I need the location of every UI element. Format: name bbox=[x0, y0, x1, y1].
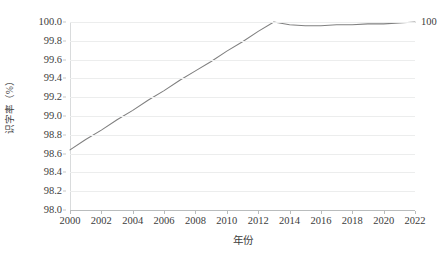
x-tick-mark bbox=[195, 211, 196, 214]
x-tick-label: 2010 bbox=[216, 216, 237, 227]
x-tick-label: 2020 bbox=[373, 216, 394, 227]
y-tick-label: 99.2 bbox=[44, 92, 62, 103]
gridline bbox=[70, 41, 415, 42]
gridline bbox=[70, 22, 415, 23]
x-tick-label: 2012 bbox=[248, 216, 269, 227]
y-tick-mark bbox=[63, 191, 66, 192]
y-axis-title: 识字率（%） bbox=[0, 0, 18, 210]
y-tick-label: 100.0 bbox=[38, 17, 62, 28]
y-tick-mark bbox=[63, 134, 66, 135]
y-tick-label: 99.4 bbox=[44, 73, 62, 84]
gridline bbox=[70, 78, 415, 79]
gridline bbox=[70, 191, 415, 192]
x-tick-mark bbox=[384, 211, 385, 214]
x-tick-mark bbox=[133, 211, 134, 214]
y-tick-label: 98.4 bbox=[44, 167, 62, 178]
x-tick-label: 2006 bbox=[154, 216, 175, 227]
y-tick-mark bbox=[63, 210, 66, 211]
y-tick-mark bbox=[63, 116, 66, 117]
y-axis-title-text: 识字率（%） bbox=[2, 76, 16, 134]
x-tick-mark bbox=[227, 211, 228, 214]
literacy-rate-line-chart: 识字率（%） 100.099.899.699.499.299.098.898.6… bbox=[0, 0, 448, 255]
end-value-label: 100 bbox=[421, 17, 437, 28]
y-tick-mark bbox=[63, 172, 66, 173]
y-tick-label: 98.0 bbox=[44, 205, 62, 216]
x-tick-mark bbox=[258, 211, 259, 214]
x-tick-label: 2022 bbox=[405, 216, 426, 227]
x-tick-mark bbox=[164, 211, 165, 214]
y-tick-mark bbox=[63, 59, 66, 60]
y-tick-label: 99.0 bbox=[44, 111, 62, 122]
x-tick-label: 2004 bbox=[122, 216, 143, 227]
gridline bbox=[70, 60, 415, 61]
y-axis-ticks: 100.099.899.699.499.299.098.898.698.498.… bbox=[18, 22, 66, 210]
x-tick-label: 2016 bbox=[310, 216, 331, 227]
y-tick-mark bbox=[63, 22, 66, 23]
x-tick-mark bbox=[290, 211, 291, 214]
y-tick-mark bbox=[63, 40, 66, 41]
x-tick-mark bbox=[321, 211, 322, 214]
x-tick-label: 2002 bbox=[91, 216, 112, 227]
x-tick-label: 2008 bbox=[185, 216, 206, 227]
y-tick-label: 99.8 bbox=[44, 36, 62, 47]
x-axis-ticks: 2000200220042006200820102012201420162018… bbox=[70, 211, 415, 231]
plot-area bbox=[70, 22, 415, 210]
gridline bbox=[70, 154, 415, 155]
y-tick-label: 98.2 bbox=[44, 186, 62, 197]
x-tick-mark bbox=[415, 211, 416, 214]
y-tick-mark bbox=[63, 153, 66, 154]
gridline bbox=[70, 135, 415, 136]
x-tick-mark bbox=[352, 211, 353, 214]
y-tick-mark bbox=[63, 97, 66, 98]
x-tick-mark bbox=[101, 211, 102, 214]
y-tick-label: 99.6 bbox=[44, 54, 62, 65]
x-tick-mark bbox=[70, 211, 71, 214]
x-tick-label: 2018 bbox=[342, 216, 363, 227]
x-axis-title: 年份 bbox=[70, 232, 415, 247]
x-tick-label: 2000 bbox=[60, 216, 81, 227]
gridline bbox=[70, 97, 415, 98]
x-tick-label: 2014 bbox=[279, 216, 300, 227]
y-tick-label: 98.8 bbox=[44, 130, 62, 141]
gridline bbox=[70, 116, 415, 117]
y-tick-label: 98.6 bbox=[44, 148, 62, 159]
y-tick-mark bbox=[63, 78, 66, 79]
gridline bbox=[70, 172, 415, 173]
